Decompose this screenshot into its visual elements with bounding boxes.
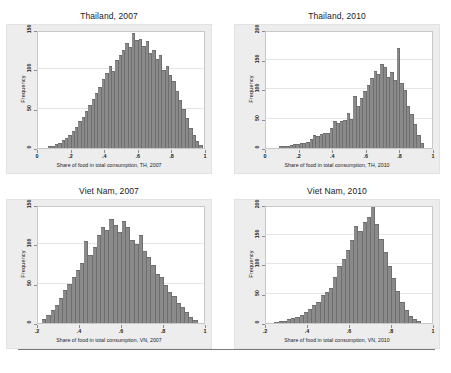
y-tick-mark [34,245,37,246]
x-tick-label: .6 [136,153,141,159]
y-tick-label: 100 [254,257,260,269]
y-tick-label: 150 [26,23,32,35]
x-tick-label: .2 [68,153,73,159]
graph-region-vietnam-2010: 050100150200Frequency.2.4.6.81Share of f… [234,199,440,349]
panel-title-thailand-2007: Thailand, 2007 [2,10,216,22]
y-tick-mark [34,285,37,286]
x-tick-label: 1 [204,153,207,159]
x-tick-label: 1 [432,153,435,159]
panel-title-vietnam-2010: Viet Nam, 2010 [230,185,444,197]
histogram-bar [421,143,424,148]
y-tick-label: 50 [254,112,260,124]
histogram-bar [417,321,421,323]
y-axis-label: Frequency [248,69,254,109]
panel-thailand-2007: Thailand, 2007 050100150Frequency0.2.4.6… [2,10,216,178]
y-tick-label: 200 [254,23,260,35]
x-tick-label: .6 [364,153,369,159]
plot-area [37,31,205,149]
plot-area [37,206,205,324]
x-tick-label: .4 [77,328,82,334]
x-axis-label: Share of food in total consumption, VN, … [7,337,211,343]
plot-area [265,206,433,324]
histogram-figure: Thailand, 2007 050100150Frequency0.2.4.6… [0,0,451,373]
y-axis-label: Frequency [20,244,26,284]
y-tick-mark [34,110,37,111]
y-tick-label: 0 [26,141,32,153]
y-tick-mark [34,206,37,207]
y-tick-label: 150 [26,198,32,210]
y-tick-mark [34,70,37,71]
y-tick-label: 100 [26,62,32,74]
x-tick-label: .6 [119,328,124,334]
y-tick-mark [262,61,265,62]
x-tick-label: 1 [432,328,435,334]
x-tick-label: 1 [204,328,207,334]
x-tick-label: 0 [264,153,267,159]
y-tick-label: 50 [254,287,260,299]
y-tick-label: 150 [254,228,260,240]
y-tick-label: 50 [26,102,32,114]
y-tick-label: 50 [26,277,32,289]
y-tick-label: 0 [26,316,32,328]
graph-region-thailand-2010: 050100150200Frequency0.2.4.6.81Share of … [234,24,440,174]
y-tick-mark [262,295,265,296]
y-tick-label: 0 [254,316,260,328]
gridline [266,59,432,60]
bottom-divider-rule [18,349,435,350]
y-tick-mark [262,206,265,207]
graph-region-thailand-2007: 050100150Frequency0.2.4.6.81Share of foo… [6,24,212,174]
plot-area [265,31,433,149]
y-tick-label: 100 [254,82,260,94]
x-tick-label: .4 [102,153,107,159]
y-tick-mark [262,265,265,266]
y-tick-mark [34,31,37,32]
x-tick-label: .8 [161,328,166,334]
panel-title-thailand-2010: Thailand, 2010 [230,10,444,22]
y-tick-mark [262,236,265,237]
x-tick-label: .2 [296,153,301,159]
x-tick-label: .8 [389,328,394,334]
x-axis-label: Share of food in total consumption, TH, … [7,162,211,168]
x-tick-label: .2 [35,328,40,334]
x-tick-label: 0 [36,153,39,159]
y-tick-label: 0 [254,141,260,153]
gridline [266,234,432,235]
x-tick-label: .4 [305,328,310,334]
y-tick-label: 200 [254,198,260,210]
histogram-bar [199,145,202,148]
y-axis-label: Frequency [20,69,26,109]
panel-vietnam-2010: Viet Nam, 2010 050100150200Frequency.2.4… [230,185,444,353]
x-axis-label: Share of food in total consumption, VN, … [235,337,439,343]
y-tick-mark [262,120,265,121]
x-axis-label: Share of food in total consumption, TH, … [235,162,439,168]
panel-thailand-2010: Thailand, 2010 050100150200Frequency0.2.… [230,10,444,178]
y-tick-label: 100 [26,237,32,249]
x-tick-label: .8 [397,153,402,159]
graph-region-vietnam-2007: 050100150Frequency.2.4.6.81Share of food… [6,199,212,349]
y-axis-label: Frequency [248,244,254,284]
y-tick-mark [262,90,265,91]
x-tick-label: .8 [169,153,174,159]
x-tick-label: .2 [263,328,268,334]
histogram-bar [193,320,197,323]
x-tick-label: .6 [347,328,352,334]
panel-title-vietnam-2007: Viet Nam, 2007 [2,185,216,197]
y-tick-mark [262,31,265,32]
gridline [266,88,432,89]
x-tick-label: .4 [330,153,335,159]
panel-vietnam-2007: Viet Nam, 2007 050100150Frequency.2.4.6.… [2,185,216,353]
y-tick-label: 150 [254,53,260,65]
